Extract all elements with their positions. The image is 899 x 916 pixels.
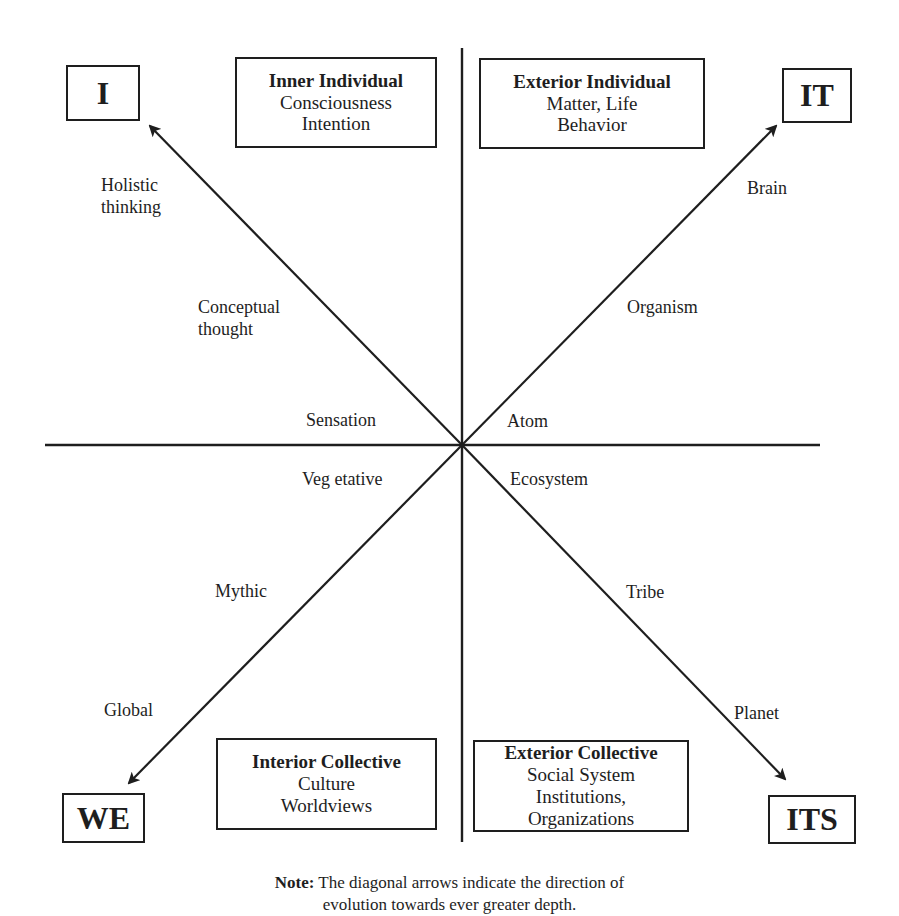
label-planet: Planet bbox=[734, 703, 779, 725]
quadrant-line: Consciousness bbox=[280, 92, 392, 114]
quadrant-title: Exterior Individual bbox=[513, 71, 670, 93]
corner-box-we: WE bbox=[62, 793, 145, 843]
label-brain: Brain bbox=[747, 178, 787, 200]
label-conceptual-thought: Conceptual thought bbox=[198, 297, 308, 340]
label-sensation: Sensation bbox=[306, 410, 376, 432]
quadrant-inner-individual: Inner Individual Consciousness Intention bbox=[235, 57, 437, 148]
quadrant-line: Behavior bbox=[557, 114, 627, 136]
arrow-upper-left bbox=[150, 126, 462, 445]
quadrant-line: Worldviews bbox=[281, 795, 372, 817]
note-text: The diagonal arrows indicate the directi… bbox=[318, 873, 624, 892]
quadrant-line: Organizations bbox=[528, 808, 634, 830]
quadrant-exterior-collective: Exterior Collective Social System Instit… bbox=[473, 740, 689, 832]
quadrant-exterior-individual: Exterior Individual Matter, Life Behavio… bbox=[479, 58, 705, 149]
quadrant-interior-collective: Interior Collective Culture Worldviews bbox=[216, 738, 437, 830]
label-vegetative: Veg etative bbox=[302, 469, 382, 491]
corner-box-it: IT bbox=[782, 68, 852, 123]
corner-box-i: I bbox=[66, 65, 140, 121]
quadrant-line: Matter, Life bbox=[546, 93, 637, 115]
diagram-canvas bbox=[0, 0, 899, 916]
quadrant-line: Institutions, bbox=[536, 786, 626, 808]
label-global: Global bbox=[104, 700, 153, 722]
corner-label-we: WE bbox=[77, 800, 130, 837]
quadrant-line: Intention bbox=[302, 113, 371, 135]
diagram-note: Note: The diagonal arrows indicate the d… bbox=[0, 872, 899, 916]
label-atom: Atom bbox=[507, 411, 548, 433]
quadrant-title: Inner Individual bbox=[269, 70, 403, 92]
corner-box-its: ITS bbox=[768, 795, 856, 844]
corner-label-its: ITS bbox=[786, 801, 838, 838]
quadrant-line: Culture bbox=[298, 773, 355, 795]
corner-label-i: I bbox=[97, 75, 109, 112]
note-label: Note: bbox=[275, 873, 315, 892]
label-ecosystem: Ecosystem bbox=[510, 469, 588, 491]
arrow-lower-left bbox=[129, 445, 462, 783]
quadrant-title: Exterior Collective bbox=[504, 742, 657, 764]
note-text-line-2: evolution towards ever greater depth. bbox=[0, 894, 899, 916]
label-holistic-thinking: Holistic thinking bbox=[101, 175, 181, 218]
label-organism: Organism bbox=[627, 297, 698, 319]
corner-label-it: IT bbox=[800, 77, 834, 114]
label-mythic: Mythic bbox=[215, 581, 267, 603]
quadrant-title: Interior Collective bbox=[252, 751, 401, 773]
arrow-lower-right bbox=[462, 445, 785, 779]
quadrant-line: Social System bbox=[527, 764, 635, 786]
arrow-upper-right bbox=[462, 126, 776, 445]
label-tribe: Tribe bbox=[626, 582, 664, 604]
